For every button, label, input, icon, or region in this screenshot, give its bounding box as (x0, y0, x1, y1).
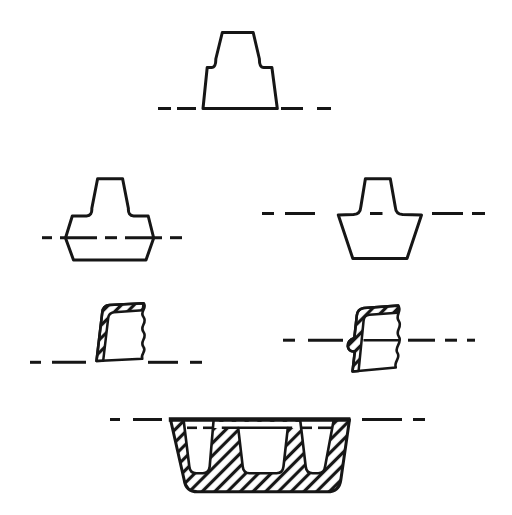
section-mold-cavity-center (238, 428, 288, 473)
diagram-canvas (0, 0, 512, 515)
